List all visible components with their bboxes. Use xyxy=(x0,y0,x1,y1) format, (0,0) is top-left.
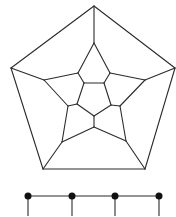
graph-edge xyxy=(94,6,175,68)
graph-edge xyxy=(145,68,175,80)
graph-edge xyxy=(111,105,120,106)
graph-edge xyxy=(104,83,111,105)
graph-edge xyxy=(11,68,44,80)
graph-edge xyxy=(11,68,43,169)
graph-edge xyxy=(126,141,145,169)
graph-edge xyxy=(62,127,94,142)
dodecahedron-graph xyxy=(11,6,175,169)
graph-edge xyxy=(44,73,78,80)
graph-node xyxy=(69,193,76,200)
graph-edge xyxy=(94,127,126,141)
graph-edge xyxy=(78,73,84,83)
graph-edge xyxy=(94,105,111,116)
graph-edge xyxy=(11,6,94,68)
graph-edge xyxy=(43,142,62,169)
graph-edge xyxy=(120,80,145,106)
graph-edge xyxy=(104,73,110,83)
graph-edge xyxy=(145,68,175,169)
graph-node xyxy=(156,193,163,200)
graph-node xyxy=(25,193,32,200)
graph-edge xyxy=(62,106,68,142)
graph-node xyxy=(112,193,119,200)
graph-edge xyxy=(68,104,77,106)
graph-figure xyxy=(0,0,176,216)
graph-edge xyxy=(44,80,68,106)
graph-edge xyxy=(77,104,94,116)
graph-edge xyxy=(94,43,110,73)
graph-edge xyxy=(120,106,126,141)
graph-edge xyxy=(77,83,84,104)
graph-edge xyxy=(78,43,94,73)
path-graph xyxy=(25,193,163,217)
graph-edge xyxy=(110,73,145,80)
